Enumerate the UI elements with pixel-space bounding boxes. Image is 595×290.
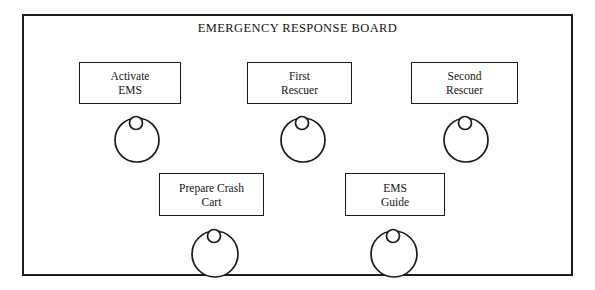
node-label-line1: Activate bbox=[111, 70, 150, 82]
person-figure-second-rescuer bbox=[440, 112, 492, 168]
node-label-line2: Guide bbox=[381, 196, 409, 208]
node-label: First Rescuer bbox=[277, 69, 322, 97]
node-label-line2: Cart bbox=[202, 196, 222, 208]
node-first-rescuer[interactable]: First Rescuer bbox=[247, 62, 352, 104]
node-label-line1: EMS bbox=[383, 182, 407, 194]
node-label: Prepare Crash Cart bbox=[175, 181, 248, 209]
node-label-line1: Prepare Crash bbox=[179, 182, 244, 194]
node-label-line2: EMS bbox=[118, 84, 142, 96]
person-figure-prepare-crash-cart bbox=[188, 225, 242, 283]
node-label: EMS Guide bbox=[377, 181, 413, 209]
person-head-icon bbox=[130, 117, 143, 130]
person-head-icon bbox=[459, 117, 472, 130]
emergency-response-board-screenshot: EMERGENCY RESPONSE BOARD Activate EMS Fi… bbox=[0, 0, 595, 290]
person-figure-first-rescuer bbox=[277, 112, 329, 168]
node-label: Second Rescuer bbox=[442, 69, 487, 97]
board-title: EMERGENCY RESPONSE BOARD bbox=[22, 21, 573, 36]
node-prepare-crash-cart[interactable]: Prepare Crash Cart bbox=[159, 173, 264, 216]
node-label-line2: Rescuer bbox=[281, 84, 318, 96]
person-figure-ems-guide bbox=[367, 225, 421, 283]
person-head-icon bbox=[208, 230, 221, 243]
node-label: Activate EMS bbox=[107, 69, 154, 97]
node-label-line2: Rescuer bbox=[446, 84, 483, 96]
person-figure-activate-ems bbox=[111, 112, 163, 168]
node-second-rescuer[interactable]: Second Rescuer bbox=[411, 62, 518, 104]
person-head-icon bbox=[387, 230, 400, 243]
node-activate-ems[interactable]: Activate EMS bbox=[79, 62, 181, 104]
node-ems-guide[interactable]: EMS Guide bbox=[345, 173, 445, 216]
node-label-line1: First bbox=[289, 70, 310, 82]
person-head-icon bbox=[296, 117, 309, 130]
node-label-line1: Second bbox=[448, 70, 482, 82]
